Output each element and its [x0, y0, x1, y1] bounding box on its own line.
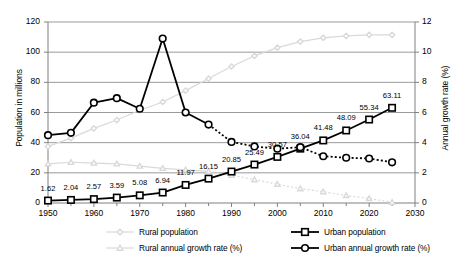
data-label-urban-population: 36.04	[283, 132, 317, 141]
x-axis-tick-label: 1950	[28, 208, 68, 218]
data-label-urban-population: 30.57	[260, 140, 294, 149]
y-axis-left-tick-label: 20	[14, 167, 40, 177]
x-axis-tick-label: 1980	[166, 208, 206, 218]
y-axis-right-tick-label: 10	[422, 46, 448, 56]
x-axis-tick-label: 1960	[74, 208, 114, 218]
y-axis-right-tick-label: 12	[422, 16, 448, 26]
legend-item[interactable]: Urban population	[290, 224, 386, 239]
chart-container: Population in millions Annual growth rat…	[0, 0, 463, 268]
legend-item[interactable]: Rural population	[105, 224, 198, 239]
y-axis-left-tick-label: 120	[14, 16, 40, 26]
gridlines	[48, 22, 415, 173]
legend-marker-circle-icon	[290, 242, 320, 254]
x-axis-tick-label: 1970	[120, 208, 160, 218]
legend-item-label: Rural population	[139, 227, 198, 237]
legend-item-label: Rural annual growth rate (%)	[139, 243, 242, 253]
y-axis-left-tick-label: 40	[14, 137, 40, 147]
x-axis-tick-label: 1990	[212, 208, 252, 218]
y-axis-left-tick-label: 100	[14, 46, 40, 56]
x-axis-tick-label: 2010	[303, 208, 343, 218]
legend-marker-triangle-icon	[105, 242, 135, 254]
legend-item[interactable]: Rural annual growth rate (%)	[105, 240, 242, 255]
y-axis-right-tick-label: 2	[422, 167, 448, 177]
chart-legend: Rural populationUrban populationRural an…	[0, 224, 463, 264]
data-label-urban-population: 55.34	[352, 103, 386, 112]
data-label-urban-population: 41.48	[306, 123, 340, 132]
x-axis-tick-label: 2030	[395, 208, 435, 218]
legend-marker-diamond-icon	[105, 226, 135, 238]
legend-item-label: Urban annual growth rate (%)	[324, 243, 430, 253]
data-label-urban-population: 63.11	[375, 91, 409, 100]
x-axis-tick-label: 2020	[349, 208, 389, 218]
y-axis-right-tick-label: 4	[422, 137, 448, 147]
legend-item[interactable]: Urban annual growth rate (%)	[290, 240, 430, 255]
y-axis-right-tick-label: 0	[422, 197, 448, 207]
y-axis-left-tick-label: 60	[14, 107, 40, 117]
y-axis-right-tick-label: 6	[422, 107, 448, 117]
legend-marker-square-icon	[290, 226, 320, 238]
data-label-urban-population: 25.49	[237, 148, 271, 157]
legend-item-label: Urban population	[324, 227, 386, 237]
y-axis-left-tick-label: 80	[14, 76, 40, 86]
x-axis-tick-label: 2000	[257, 208, 297, 218]
y-axis-right-tick-label: 8	[422, 76, 448, 86]
data-label-urban-population: 48.09	[329, 113, 363, 122]
y-axis-left-tick-label: 0	[14, 197, 40, 207]
series-urban-annual-growth-rate	[45, 35, 396, 165]
